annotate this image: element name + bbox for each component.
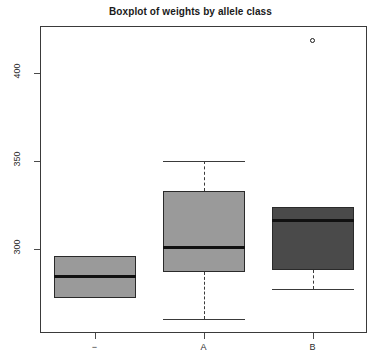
y-tick-label: 350 xyxy=(12,144,22,174)
median-line xyxy=(54,275,136,278)
boxplot-figure: Boxplot of weights by allele class 30035… xyxy=(0,0,381,364)
x-tick-label: A xyxy=(184,342,224,352)
whisker-cap-upper xyxy=(163,161,245,162)
box-rect xyxy=(163,191,245,272)
x-tick-label: − xyxy=(75,342,115,352)
x-tick-mark xyxy=(313,333,314,339)
whisker-lower xyxy=(313,270,314,289)
x-tick-label: B xyxy=(293,342,333,352)
outlier-point xyxy=(310,38,315,43)
median-line xyxy=(163,246,245,249)
y-tick-label: 400 xyxy=(12,56,22,86)
y-tick-label: 300 xyxy=(12,232,22,262)
median-line xyxy=(272,219,354,222)
whisker-upper xyxy=(204,161,205,191)
x-tick-mark xyxy=(95,333,96,339)
y-tick-mark xyxy=(34,73,40,74)
whisker-lower xyxy=(204,272,205,319)
whisker-cap-lower xyxy=(163,319,245,320)
whisker-cap-lower xyxy=(272,289,354,290)
x-tick-mark xyxy=(204,333,205,339)
chart-title: Boxplot of weights by allele class xyxy=(0,6,381,17)
y-tick-mark xyxy=(34,249,40,250)
y-tick-mark xyxy=(34,161,40,162)
box-rect xyxy=(272,207,354,270)
